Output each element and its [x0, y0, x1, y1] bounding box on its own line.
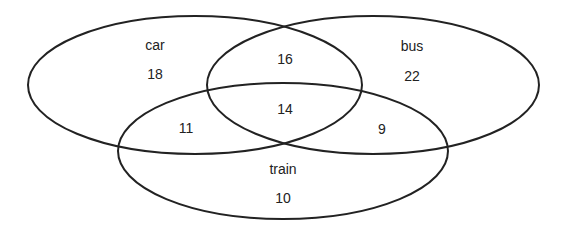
set-label-car: car: [145, 37, 165, 53]
region-train-only: 10: [275, 190, 291, 206]
set-label-train: train: [269, 161, 296, 177]
set-bus-ellipse: [207, 16, 539, 154]
region-car-train: 11: [179, 120, 194, 136]
region-all-three: 14: [277, 101, 293, 117]
set-label-bus: bus: [401, 38, 424, 54]
region-car-bus: 16: [277, 51, 293, 67]
venn-diagram: car 18 bus 22 16 14 11 9 train 10: [0, 0, 569, 234]
set-car-ellipse: [28, 16, 362, 154]
region-bus-only: 22: [404, 68, 420, 84]
region-bus-train: 9: [378, 121, 386, 137]
region-car-only: 18: [147, 66, 163, 82]
